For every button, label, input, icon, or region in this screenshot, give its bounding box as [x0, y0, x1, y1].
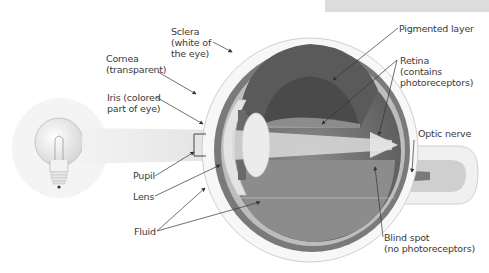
label-fluid: Fluid — [134, 226, 156, 237]
label-optic-nerve: Optic nerve — [418, 128, 471, 139]
label-cornea: Cornea (transparent) — [106, 53, 166, 75]
eye-diagram: Sclera (white of the eye) Cornea (transp… — [0, 0, 489, 273]
label-retina: Retina (contains photoreceptors) — [400, 55, 473, 88]
label-sclera: Sclera (white of the eye) — [171, 26, 211, 59]
label-pupil: Pupil — [133, 170, 155, 181]
label-pigmented-layer: Pigmented layer — [399, 23, 474, 34]
label-blind-spot: Blind spot (no photoreceptors) — [384, 232, 475, 254]
label-iris: Iris (colored part of eye) — [107, 92, 160, 114]
label-lens: Lens — [133, 191, 154, 202]
